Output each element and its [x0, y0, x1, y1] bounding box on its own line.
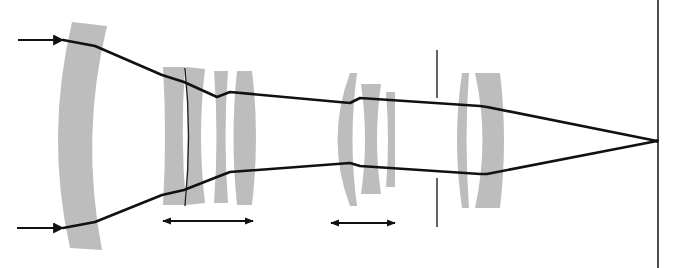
moving-group-3: [338, 73, 396, 206]
focal-point: [655, 139, 659, 143]
front-meniscus-lens: [58, 22, 107, 250]
moving-group-2: [163, 67, 256, 206]
lens-diagram: [0, 0, 674, 268]
rear-group: [457, 73, 504, 208]
ray-bottom: [63, 141, 657, 228]
ray-top: [63, 40, 657, 141]
